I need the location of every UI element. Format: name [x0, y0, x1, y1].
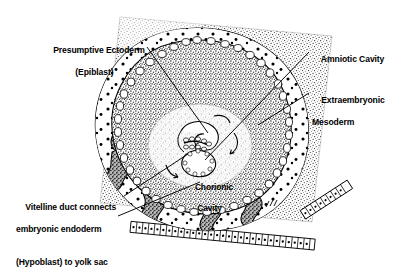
label-vitelline-duct-line2: embryonic endoderm [16, 224, 116, 235]
label-presumptive-ectoderm-line2: (Epiblast) [44, 67, 145, 78]
label-extraembryonic-mesoderm-line1: Extraembryonic [321, 95, 385, 105]
label-extraembryonic-mesoderm-line2: Mesoderm [312, 117, 385, 128]
label-vitelline-duct-line1: Vitelline duct connects [25, 202, 116, 212]
label-extraembryonic-mesoderm: Extraembryonic Mesoderm [312, 84, 385, 150]
label-chorionic-cavity-line2: Cavity [186, 203, 233, 214]
label-amniotic-cavity-line1: Amniotic Cavity [321, 54, 384, 64]
label-presumptive-ectoderm: Presumptive Ectoderm (Epiblast) [44, 34, 145, 100]
label-chorionic-cavity: Chorionic Cavity [186, 171, 233, 236]
label-vitelline-duct-line3: (Hypoblast) to yolk sac [16, 257, 116, 268]
label-presumptive-ectoderm-line1: Presumptive Ectoderm [53, 45, 145, 55]
label-vitelline-duct: Vitelline duct connects embryonic endode… [16, 191, 116, 271]
label-chorionic-cavity-line1: Chorionic [195, 182, 233, 192]
label-amniotic-cavity: Amniotic Cavity [312, 43, 384, 76]
